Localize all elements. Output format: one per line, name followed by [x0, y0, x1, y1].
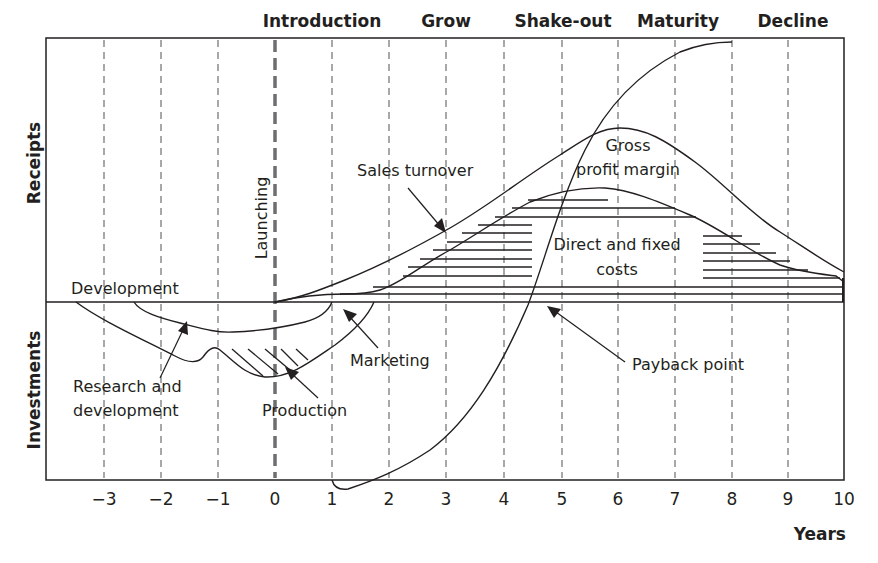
sales-turnover-curve: [275, 128, 844, 302]
svg-text:10: 10: [833, 489, 855, 509]
svg-text:1: 1: [327, 489, 338, 509]
svg-text:5: 5: [557, 489, 568, 509]
product-life-cycle-diagram: Introduction Grow Shake-out Maturity Dec…: [0, 0, 878, 563]
phase-introduction: Introduction: [263, 11, 382, 31]
svg-text:7: 7: [670, 489, 681, 509]
svg-text:−2: −2: [148, 489, 173, 509]
gross-profit-label-line1: Gross: [605, 136, 650, 155]
payback-point-label: Payback point: [632, 355, 744, 374]
svg-text:8: 8: [727, 489, 738, 509]
svg-text:6: 6: [613, 489, 624, 509]
development-curve: [134, 302, 332, 332]
production-label: Production: [262, 401, 347, 420]
svg-text:4: 4: [499, 489, 510, 509]
svg-text:3: 3: [441, 489, 452, 509]
gross-profit-label-line2: profit margin: [576, 160, 680, 179]
costs-label-line1: Direct and fixed: [553, 235, 680, 254]
phase-shake-out: Shake-out: [514, 11, 611, 31]
marketing-label: Marketing: [350, 351, 430, 370]
phase-decline: Decline: [757, 11, 828, 31]
x-axis-ticks: −3 −2 −1 0 1 2 3 4 5 6 7 8 9 10: [91, 489, 854, 509]
research-development-label-line1: Research and: [73, 377, 182, 396]
cumulative-cash-flow-curve: [332, 42, 732, 489]
research-development-curve: [76, 302, 374, 377]
years-axis-label: Years: [793, 524, 846, 544]
phase-grow: Grow: [421, 11, 471, 31]
svg-text:−3: −3: [91, 489, 116, 509]
investments-axis-label: Investments: [24, 331, 44, 450]
svg-text:−1: −1: [205, 489, 230, 509]
development-label: Development: [71, 279, 179, 298]
phase-maturity: Maturity: [637, 11, 719, 31]
sales-turnover-label: Sales turnover: [357, 161, 474, 180]
svg-text:0: 0: [270, 489, 281, 509]
costs-label-line2: costs: [596, 260, 638, 279]
launching-label: Launching: [252, 177, 271, 260]
research-development-label-line2: development: [73, 401, 179, 420]
receipts-axis-label: Receipts: [24, 122, 44, 204]
svg-text:2: 2: [384, 489, 395, 509]
svg-text:9: 9: [783, 489, 794, 509]
